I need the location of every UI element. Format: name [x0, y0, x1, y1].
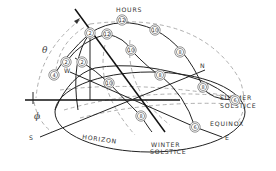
equinox-label: EQUINOX	[210, 120, 244, 127]
hour-marker: 8	[136, 111, 146, 121]
svg-text:12: 12	[119, 17, 125, 23]
west-label: W	[64, 67, 71, 74]
east-label: E	[225, 134, 230, 141]
svg-text:2: 2	[88, 30, 91, 36]
svg-text:10: 10	[128, 47, 134, 53]
hour-marker: 10	[104, 78, 114, 88]
inner-dashed-arc	[103, 45, 135, 135]
horizon-label: HORIZON	[82, 133, 118, 145]
svg-text:10: 10	[152, 27, 158, 33]
svg-text:4: 4	[52, 72, 55, 78]
phi-label: ϕ	[34, 111, 40, 121]
hour-marker: 12	[117, 15, 127, 25]
equinox-dashed-path	[64, 94, 226, 110]
svg-text:6: 6	[233, 97, 236, 103]
hour-marker: 6	[230, 95, 240, 105]
svg-text:12: 12	[104, 31, 110, 37]
hours-label: HOURS	[116, 6, 142, 13]
south-label: S	[29, 134, 34, 141]
sun-path-svg: θ ϕ HOURS SUMMER SOLSTICE EQUINOX WINTER…	[0, 0, 276, 171]
north-label: N	[200, 62, 205, 69]
svg-text:8: 8	[201, 84, 204, 90]
hour-marker: 8	[175, 47, 185, 57]
svg-text:6: 6	[193, 124, 196, 130]
svg-text:8: 8	[139, 113, 142, 119]
winter-solstice-label-1: WINTER	[151, 141, 180, 148]
svg-text:8: 8	[178, 49, 181, 55]
sun-path-diagram: θ ϕ HOURS SUMMER SOLSTICE EQUINOX WINTER…	[0, 0, 276, 171]
hour-marker: 8	[155, 70, 165, 80]
hour-marker: 2	[85, 28, 95, 38]
hour-marker: 12	[102, 29, 112, 39]
hour-marker: 8	[198, 82, 208, 92]
winter-solstice-label-2: SOLSTICE	[150, 148, 186, 155]
svg-text:2: 2	[80, 59, 83, 65]
svg-text:8: 8	[158, 72, 161, 78]
hour-marker: 10	[126, 45, 136, 55]
svg-text:10: 10	[106, 80, 112, 86]
hour-marker: 4	[49, 70, 59, 80]
theta-label: θ	[42, 45, 48, 55]
hour-marker: 6	[190, 122, 200, 132]
svg-text:2: 2	[64, 59, 67, 65]
hour-marker: 2	[77, 57, 87, 67]
theta-arc	[36, 20, 80, 98]
hour-marker: 10	[150, 25, 160, 35]
hour-marker: 2	[61, 57, 71, 67]
